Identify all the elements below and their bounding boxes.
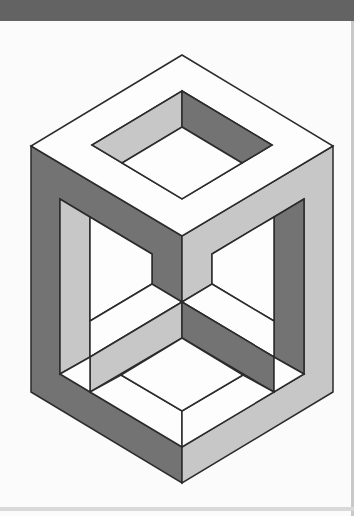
scanned-page [0,0,354,516]
impossible-cuboid-figure [0,0,354,516]
left-inner-wall [60,199,90,374]
right-inner-wall [274,199,304,374]
